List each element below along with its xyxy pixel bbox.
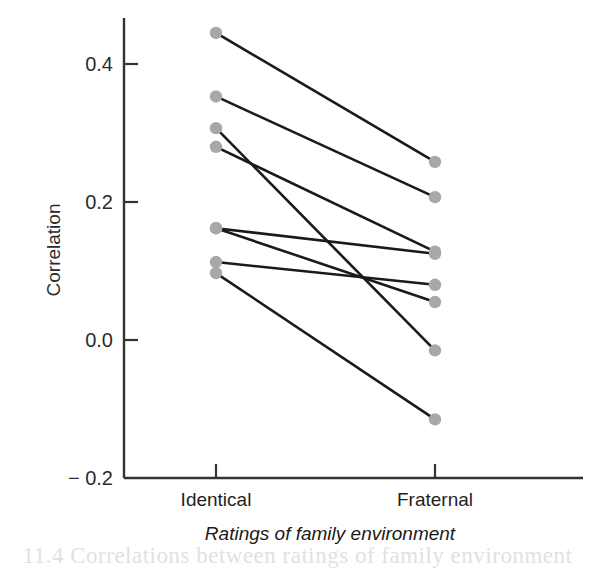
x-tick-label: Identical: [181, 489, 252, 510]
slope-line: [216, 228, 435, 254]
data-point: [429, 156, 441, 168]
data-point: [429, 344, 441, 356]
slope-chart-figure: 0.40.20.0− 0.2 IdenticalFraternal Correl…: [0, 0, 595, 577]
data-point: [210, 122, 222, 134]
y-axis-ticks: [124, 64, 138, 340]
y-tick-label: 0.4: [85, 53, 113, 75]
data-point: [210, 267, 222, 279]
slope-line: [216, 96, 435, 197]
y-tick-label: 0.2: [85, 191, 113, 213]
x-axis-title: Ratings of family environment: [205, 523, 456, 544]
data-point: [210, 141, 222, 153]
slope-line: [216, 147, 435, 252]
data-point-group: [210, 27, 441, 426]
data-point: [210, 27, 222, 39]
x-axis-tick-labels: IdenticalFraternal: [181, 489, 473, 510]
slope-line: [216, 273, 435, 419]
data-point: [429, 248, 441, 260]
y-tick-label: − 0.2: [68, 467, 113, 489]
x-tick-label: Fraternal: [397, 489, 473, 510]
data-point: [210, 256, 222, 268]
data-point: [429, 191, 441, 203]
slope-line-group: [216, 33, 435, 419]
slope-line: [216, 33, 435, 162]
data-point: [429, 296, 441, 308]
data-point: [210, 90, 222, 102]
data-point: [429, 279, 441, 291]
data-point: [429, 413, 441, 425]
correlation-slope-chart: 0.40.20.0− 0.2 IdenticalFraternal Correl…: [0, 0, 595, 577]
y-tick-label: 0.0: [85, 329, 113, 351]
y-axis-tick-labels: 0.40.20.0− 0.2: [68, 53, 113, 489]
data-point: [210, 222, 222, 234]
y-axis-title: Correlation: [43, 204, 64, 297]
x-axis-ticks: [216, 464, 435, 478]
